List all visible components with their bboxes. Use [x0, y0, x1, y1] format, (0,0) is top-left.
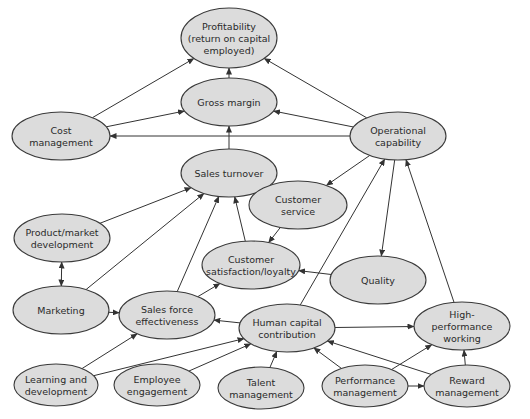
- arrow-human-capital-contribution-to-sales-force-effectiveness: [214, 320, 240, 323]
- arrow-cost-management-to-gross-margin: [106, 111, 184, 127]
- strategy-map-diagram: Profitability(return on capitalemployed)…: [0, 0, 530, 419]
- arrow-operational-capability-to-gross-margin: [274, 111, 354, 127]
- arrow-employee-engagement-to-human-capital-contribution: [189, 344, 251, 371]
- node-label: Talent: [246, 377, 276, 388]
- node-label: effectiveness: [135, 316, 198, 327]
- node-reward-management: Rewardmanagement: [424, 365, 510, 407]
- node-label: Marketing: [37, 305, 84, 316]
- node-product-market-development: Product/marketdevelopment: [14, 214, 110, 262]
- arrow-operational-capability-to-profitability: [264, 58, 367, 117]
- arrow-customer-service-to-customer-satisfaction: [269, 227, 281, 242]
- nodes-layer: Profitability(return on capitalemployed)…: [12, 8, 510, 409]
- node-label: working: [443, 333, 481, 344]
- arrow-performance-management-to-high-performance-working: [392, 345, 432, 370]
- arrow-human-capital-contribution-to-high-performance-working: [335, 327, 414, 328]
- node-label: Sales force: [141, 304, 193, 315]
- node-sales-force-effectiveness: Sales forceeffectiveness: [119, 291, 215, 339]
- node-marketing: Marketing: [13, 286, 109, 334]
- node-cost-management: Costmanagement: [12, 112, 110, 160]
- node-label: Customer: [228, 254, 274, 265]
- node-label: management: [435, 387, 499, 398]
- node-label: development: [31, 239, 94, 250]
- arrow-customer-satisfaction-to-sales-turnover: [235, 197, 246, 241]
- node-label: service: [281, 206, 315, 217]
- node-label: Cost: [50, 125, 71, 136]
- arrow-operational-capability-to-customer-service: [326, 155, 369, 185]
- node-label: Profitability: [202, 21, 256, 32]
- node-label: Human capital: [252, 317, 321, 328]
- node-performance-management: Performancemanagement: [322, 365, 408, 407]
- node-talent-management: Talentmanagement: [218, 367, 304, 409]
- arrow-learning-development-to-sales-force-effectiveness: [82, 334, 137, 369]
- node-label: Product/market: [26, 227, 99, 238]
- node-label: Quality: [361, 275, 395, 286]
- node-label: Gross margin: [197, 97, 260, 108]
- arrow-reward-management-to-high-performance-working: [464, 350, 465, 365]
- arrow-quality-to-customer-satisfaction: [299, 271, 332, 275]
- arrow-performance-management-to-human-capital-contribution: [314, 348, 342, 369]
- node-label: management: [333, 387, 397, 398]
- node-label: High-: [449, 309, 474, 320]
- arrow-product-market-development-to-sales-turnover: [100, 188, 191, 224]
- node-label: satisfaction/loyalty: [206, 266, 296, 277]
- node-label: Learning and: [25, 374, 87, 385]
- node-label: Employee: [133, 374, 180, 385]
- node-label: engagement: [127, 386, 188, 397]
- node-operational-capability: Operationalcapability: [350, 112, 446, 160]
- node-label: Performance: [335, 375, 395, 386]
- node-high-performance-working: High-performanceworking: [414, 302, 510, 350]
- node-label: management: [29, 137, 93, 148]
- node-quality: Quality: [330, 256, 426, 304]
- node-label: performance: [432, 321, 493, 332]
- node-label: development: [25, 386, 88, 397]
- node-gross-margin: Gross margin: [181, 78, 277, 126]
- node-label: capability: [375, 137, 422, 148]
- node-label: (return on capital: [188, 33, 271, 44]
- node-label: management: [229, 389, 293, 400]
- node-profitability: Profitability(return on capitalemployed): [181, 8, 277, 68]
- node-label: employed): [204, 45, 255, 56]
- node-employee-engagement: Employeeengagement: [114, 364, 200, 406]
- node-label: Customer: [275, 194, 321, 205]
- node-label: Operational: [370, 125, 426, 136]
- node-label: Sales turnover: [195, 168, 264, 179]
- node-customer-service: Customerservice: [249, 181, 347, 229]
- node-label: contribution: [258, 329, 316, 340]
- node-customer-satisfaction: Customersatisfaction/loyalty: [202, 241, 300, 289]
- node-human-capital-contribution: Human capitalcontribution: [239, 304, 335, 352]
- node-learning-development: Learning anddevelopment: [14, 364, 98, 406]
- arrow-cost-management-to-profitability: [93, 59, 194, 118]
- node-label: Reward: [449, 375, 484, 386]
- arrow-talent-management-to-human-capital-contribution: [270, 352, 277, 368]
- arrow-operational-capability-to-quality: [381, 160, 394, 256]
- arrow-sales-force-effectiveness-to-customer-satisfaction: [198, 284, 220, 297]
